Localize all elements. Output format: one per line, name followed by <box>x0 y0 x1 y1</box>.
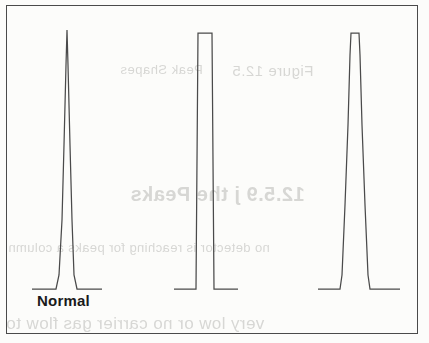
peak-trace-canvas <box>6 5 418 334</box>
peak-trace-broad-trapezoid-peak <box>318 33 400 289</box>
peak-trace-normal-peak <box>32 30 102 289</box>
scanned-page: Figure 12.5 Peak Shapes 12.5.9 j the Pea… <box>0 0 429 343</box>
peak-trace-flat-topped-peak <box>174 33 238 289</box>
normal-peak-label: Normal <box>37 292 90 309</box>
